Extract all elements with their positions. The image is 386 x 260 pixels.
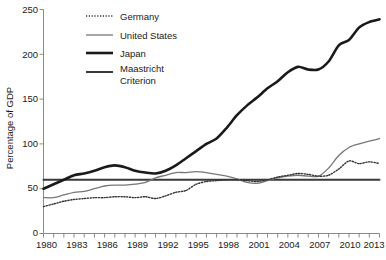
line-chart: Percentage of GDP 250 200 150 100 50 0 1… <box>0 0 386 260</box>
legend-label-maastricht-line1: Maastricht <box>120 63 164 74</box>
x-axis-ticks <box>44 234 380 238</box>
x-tick-label-1980: 1980 <box>36 239 57 250</box>
y-tick-label-0: 0 <box>33 227 38 238</box>
x-tick-label-1995: 1995 <box>188 239 209 250</box>
legend-label-maastricht-line2: Criterion <box>120 75 156 86</box>
x-tick-label-2007: 2007 <box>309 239 330 250</box>
x-tick-label-2010: 2010 <box>339 239 360 250</box>
legend-label-japan: Japan <box>120 48 146 59</box>
y-tick-label-50: 50 <box>27 182 38 193</box>
data-series-group <box>44 19 380 206</box>
chart-legend: Germany United States Japan Maastricht C… <box>86 11 177 86</box>
y-tick-label-200: 200 <box>22 49 38 60</box>
x-tick-label-1989: 1989 <box>127 239 148 250</box>
x-tick-label-1986: 1986 <box>97 239 118 250</box>
x-axis-tick-labels: 1980 1983 1986 1989 1992 1995 1998 2001 … <box>36 239 385 250</box>
legend-label-united-states: United States <box>120 30 177 41</box>
x-tick-label-2013: 2013 <box>363 239 384 250</box>
x-tick-label-1998: 1998 <box>218 239 239 250</box>
x-tick-label-1992: 1992 <box>157 239 178 250</box>
x-tick-label-1983: 1983 <box>66 239 87 250</box>
x-tick-label-2004: 2004 <box>279 239 300 250</box>
series-line-united-states <box>44 139 380 198</box>
chart-container: Percentage of GDP 250 200 150 100 50 0 1… <box>0 0 386 260</box>
y-axis-ticks <box>40 10 44 234</box>
y-tick-label-250: 250 <box>22 4 38 15</box>
y-axis-title: Percentage of GDP <box>4 87 15 169</box>
y-tick-label-150: 150 <box>22 93 38 104</box>
series-line-japan <box>44 19 380 188</box>
x-tick-label-2001: 2001 <box>248 239 269 250</box>
legend-label-germany: Germany <box>120 11 159 22</box>
y-tick-label-100: 100 <box>22 138 38 149</box>
